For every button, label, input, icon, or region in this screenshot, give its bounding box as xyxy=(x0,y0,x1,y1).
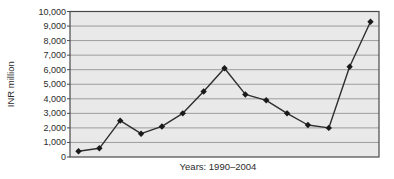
line-chart: 01,0002,0003,0004,0005,0006,0007,0008,00… xyxy=(0,0,394,179)
y-tick-label: 4,000 xyxy=(43,94,66,104)
y-tick-label: 0 xyxy=(61,152,66,162)
y-tick-label: 9,000 xyxy=(43,21,66,31)
y-tick-label: 3,000 xyxy=(43,108,66,118)
y-tick-label: 2,000 xyxy=(43,123,66,133)
y-tick-label: 6,000 xyxy=(43,65,66,75)
y-tick-label: 10,000 xyxy=(38,7,66,17)
y-tick-label: 8,000 xyxy=(43,36,66,46)
y-axis-title: INR million xyxy=(5,61,16,107)
line-chart-figure: 01,0002,0003,0004,0005,0006,0007,0008,00… xyxy=(0,0,394,179)
y-tick-label: 1,000 xyxy=(43,137,66,147)
y-tick-label: 5,000 xyxy=(43,79,66,89)
y-tick-label: 7,000 xyxy=(43,50,66,60)
x-axis-title: Years: 1990–2004 xyxy=(180,161,257,172)
